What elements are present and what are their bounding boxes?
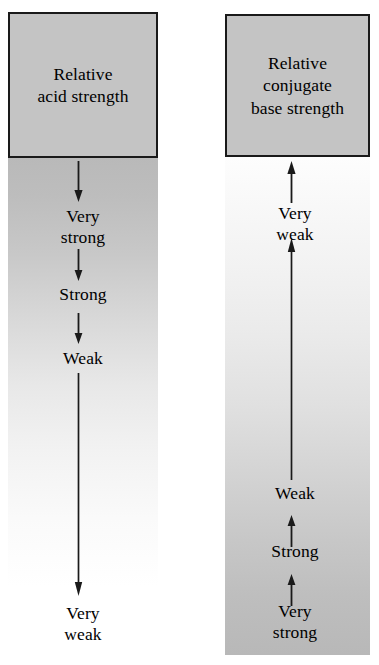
acid-level-very-strong: Very strong bbox=[8, 206, 158, 249]
acid-strength-header-box: Relative acid strength bbox=[8, 12, 158, 158]
acid-strength-header-label: Relative acid strength bbox=[31, 63, 134, 108]
acid-level-weak: Weak bbox=[8, 348, 158, 369]
acid-arrow-down-3 bbox=[74, 313, 83, 345]
base-level-weak: Weak bbox=[220, 483, 370, 504]
conjugate-base-header-box: Relative conjugate base strength bbox=[225, 14, 370, 157]
conjugate-base-header-label: Relative conjugate base strength bbox=[245, 52, 350, 119]
acid-arrow-down-long bbox=[74, 373, 83, 597]
acid-level-strong: Strong bbox=[8, 284, 158, 305]
base-level-very-weak: Very weak bbox=[220, 203, 370, 246]
base-arrow-up-long bbox=[287, 238, 296, 480]
acid-arrow-down-1 bbox=[74, 161, 83, 203]
base-level-strong: Strong bbox=[220, 541, 370, 562]
acid-base-strength-diagram: Relative acid strength Very strong Stron… bbox=[0, 0, 379, 665]
base-arrow-up-1 bbox=[287, 161, 296, 203]
base-level-very-strong: Very strong bbox=[220, 601, 370, 644]
acid-arrow-down-2 bbox=[74, 249, 83, 282]
acid-level-very-weak: Very weak bbox=[8, 603, 158, 646]
